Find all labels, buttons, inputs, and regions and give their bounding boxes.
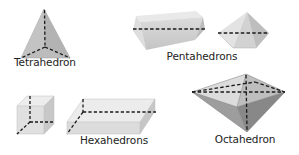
pentahedron-pyramid-shape xyxy=(218,12,269,48)
pentahedrons-label: Pentahedrons xyxy=(167,50,238,62)
hexahedrons-label: Hexahedrons xyxy=(80,134,148,146)
hexahedron-box-shape xyxy=(67,99,156,134)
tetrahedron-shape xyxy=(21,9,70,58)
tetrahedron-label: Tetrahedron xyxy=(14,56,76,68)
octahedron-shape xyxy=(192,74,285,132)
octahedron-label: Octahedron xyxy=(215,133,276,145)
pentahedron-prism-shape xyxy=(133,11,205,50)
polyhedra-diagram xyxy=(0,0,299,155)
hexahedron-cube-shape xyxy=(17,96,54,134)
